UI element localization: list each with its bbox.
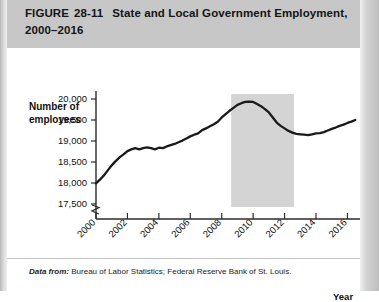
y-axis-title: Number of employees	[29, 101, 119, 126]
x-tick-label: 2012	[263, 217, 286, 240]
source-note-text: Bureau of Labor Statistics; Federal Rese…	[71, 267, 291, 276]
recession-band	[231, 94, 294, 207]
x-tick-label: 2008	[200, 217, 223, 240]
y-axis-title-line1: Number of	[29, 101, 119, 114]
x-tick-label: 2010	[232, 217, 255, 240]
y-axis-title-line2: employees	[29, 114, 119, 127]
figure-title-line1: State and Local Government Employment,	[112, 7, 347, 19]
x-tick-label: 2014	[295, 217, 318, 240]
footnote-panel: Data from: Bureau of Labor Statistics; F…	[7, 258, 360, 292]
y-axis-break-icon	[92, 205, 99, 214]
page-left-edge	[0, 0, 7, 291]
x-tick-label: 2004	[138, 217, 161, 240]
source-note: Data from: Bureau of Labor Statistics; F…	[29, 267, 291, 276]
y-tick-label: 19,000	[58, 135, 87, 146]
figure-title-line2: 2000–2016	[25, 22, 350, 39]
axis-lines	[92, 91, 360, 219]
employment-line	[96, 102, 355, 184]
x-tick-label: 2016	[326, 217, 349, 240]
line-chart: 20,00019,50019,00018,50018,00017,500 200…	[7, 48, 360, 258]
x-axis-title: Year	[333, 291, 353, 302]
chart-panel: Number of employees 20,00019,50019,00018…	[7, 48, 360, 258]
page-right-edge	[360, 0, 379, 291]
y-tick-label: 17,500	[58, 198, 87, 209]
y-tick-label: 18,500	[58, 156, 87, 167]
figure-header: FIGURE28-11State and Local Government Em…	[7, 0, 360, 48]
x-tick-label: 2006	[169, 217, 192, 240]
x-tick-label: 2000	[75, 217, 98, 240]
figure-label: FIGURE	[25, 7, 69, 19]
recession-band-layer	[231, 94, 294, 207]
data-line-layer	[96, 102, 355, 184]
source-note-label: Data from:	[29, 267, 69, 276]
x-tick-label: 2002	[106, 217, 129, 240]
x-axis-ticks: 200020022004200620082010201220142016	[75, 213, 349, 239]
figure-number: 28-11	[74, 7, 103, 19]
y-tick-label: 18,000	[58, 177, 87, 188]
figure-title: FIGURE28-11State and Local Government Em…	[25, 5, 350, 39]
